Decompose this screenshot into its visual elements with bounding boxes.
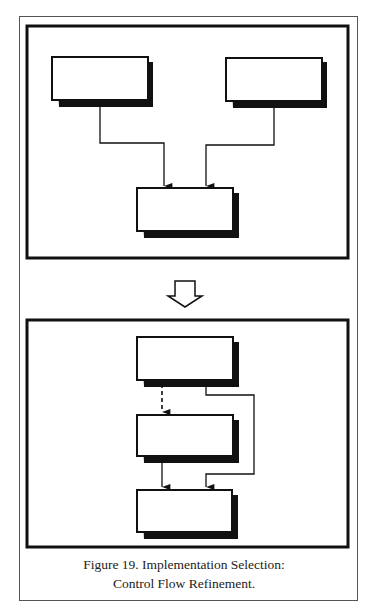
edge-top-right-to-bottom bbox=[206, 105, 274, 186]
figure-caption-line-2: Control Flow Refinement. bbox=[0, 574, 368, 593]
block-bottom-center bbox=[137, 188, 239, 238]
top-panel bbox=[27, 26, 348, 258]
block-top-right bbox=[226, 58, 327, 108]
block-lower bbox=[137, 490, 238, 539]
block-middle bbox=[137, 415, 239, 463]
figure-caption-line-1: Figure 19. Implementation Selection: bbox=[0, 555, 368, 574]
hollow-down-arrow-icon bbox=[168, 281, 202, 307]
control-flow-diagram bbox=[0, 0, 368, 612]
bottom-panel bbox=[27, 320, 348, 547]
edge-top-left-to-bottom bbox=[100, 104, 164, 186]
block-top-left bbox=[52, 57, 153, 107]
block-upper bbox=[137, 337, 239, 387]
